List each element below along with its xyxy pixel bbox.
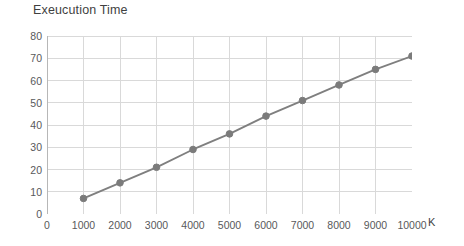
- y-tick-label: 20: [30, 164, 42, 176]
- x-tick-label: 9000: [364, 219, 387, 231]
- x-tick-label: 7000: [291, 219, 314, 231]
- x-axis-tick-labels: 0100020003000400050006000700080009000100…: [47, 219, 412, 235]
- x-tick-label: 8000: [327, 219, 350, 231]
- plot-area: [47, 36, 412, 214]
- x-tick-label: 4000: [181, 219, 204, 231]
- y-axis-tick-labels: 01020304050607080: [16, 36, 42, 214]
- chart-title: Exeucution Time: [33, 3, 128, 17]
- x-axis-title: K: [428, 216, 435, 228]
- x-tick-label: 3000: [145, 219, 168, 231]
- x-tick-label: 1000: [72, 219, 95, 231]
- y-tick-label: 70: [30, 52, 42, 64]
- x-tick-label: 0: [44, 219, 50, 231]
- y-tick-label: 50: [30, 97, 42, 109]
- x-tick-label: 6000: [254, 219, 277, 231]
- y-tick-label: 60: [30, 75, 42, 87]
- x-tick-label: 2000: [108, 219, 131, 231]
- y-tick-label: 80: [30, 30, 42, 42]
- x-tick-label: 10000: [397, 219, 426, 231]
- y-tick-label: 30: [30, 141, 42, 153]
- x-tick-label: 5000: [218, 219, 241, 231]
- y-tick-label: 0: [36, 208, 42, 220]
- execution-time-chart: Exeucution Time 01020304050607080 010002…: [0, 0, 464, 246]
- y-tick-label: 40: [30, 119, 42, 131]
- y-tick-label: 10: [30, 186, 42, 198]
- data-series-line: [47, 36, 412, 214]
